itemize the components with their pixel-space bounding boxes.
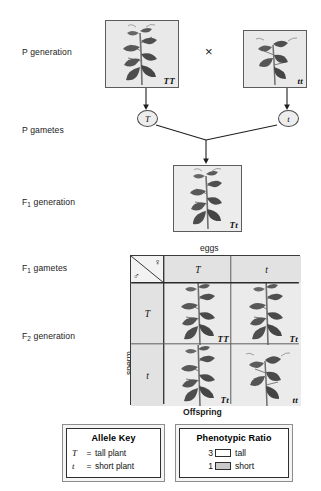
phenotypic-ratio-count-1: 1 xyxy=(203,460,213,473)
allele-key-equals-0: = xyxy=(83,447,95,459)
punnett-genotype-1-0: Tt xyxy=(221,395,229,405)
phenotypic-ratio-title: Phenotypic Ratio xyxy=(185,433,283,443)
female-symbol-icon: ♀ xyxy=(154,258,161,267)
phenotypic-ratio-label-1: short xyxy=(235,460,265,473)
punnett-egg-allele-1: t xyxy=(265,265,268,275)
phenotypic-ratio-row-short: 1 short xyxy=(185,460,283,473)
allele-key-meaning-0: tall plant xyxy=(95,447,126,459)
f2-gen-tail: generation xyxy=(31,331,75,341)
f1-genotype: Tt xyxy=(230,220,238,230)
punnett-sperm-header-T: T xyxy=(131,283,164,345)
punnett-genotype-0-0: TT xyxy=(218,334,229,344)
punnett-cell-Tt-top: Tt xyxy=(232,283,301,345)
f1-gam-tail: gametes xyxy=(31,263,67,273)
row-label-f2-generation: F2 generation xyxy=(22,331,75,341)
punnett-square: ♀ ♂ T t T t xyxy=(130,255,300,405)
p-gamete-right: t xyxy=(278,110,299,127)
f1-gen-subscript: 1 xyxy=(27,201,31,208)
punnett-genotype-0-1: Tt xyxy=(290,334,298,344)
p-gamete-left: T xyxy=(137,110,158,127)
phenotypic-ratio-legend: Phenotypic Ratio 3 tall 1 short xyxy=(175,424,293,482)
punnett-genotype-1-1: tt xyxy=(293,395,298,405)
punnett-cell-TT: TT xyxy=(164,283,232,345)
punnett-egg-header-t: t xyxy=(232,256,301,283)
allele-key-symbol-0: T xyxy=(72,447,83,460)
phenotypic-ratio-label-0: tall xyxy=(235,447,265,460)
phenotypic-ratio-inner: Phenotypic Ratio 3 tall 1 short xyxy=(179,428,289,478)
allele-key-row-t: t = short plant xyxy=(72,460,155,473)
punnett-egg-allele-0: T xyxy=(195,265,200,275)
f1-plant-box: Tt xyxy=(173,165,242,232)
male-symbol-icon: ♂ xyxy=(133,272,140,281)
punnett-offspring-label: Offspring xyxy=(183,407,222,417)
punnett-corner-cell: ♀ ♂ xyxy=(131,256,164,283)
f1-gen-tail: generation xyxy=(31,197,75,207)
allele-key-equals-1: = xyxy=(83,460,95,472)
phenotypic-ratio-row-tall: 3 tall xyxy=(185,447,283,460)
p-parent-short-box: tt xyxy=(243,30,307,88)
punnett-eggs-label: eggs xyxy=(200,243,219,253)
p-parent-short-genotype: tt xyxy=(298,76,303,86)
allele-key-symbol-1: t xyxy=(72,460,83,473)
allele-key-legend: Allele Key T = tall plant t = short plan… xyxy=(62,424,165,482)
row-label-f1-gametes: F1 gametes xyxy=(22,263,67,273)
punnett-egg-header-T: T xyxy=(164,256,232,283)
genetics-diagram: P generation P gametes F1 generation F1 … xyxy=(0,0,321,491)
phenotypic-ratio-swatch-tall xyxy=(215,449,231,457)
punnett-sperm-header-t: t xyxy=(131,345,164,406)
phenotypic-ratio-count-0: 3 xyxy=(203,447,213,460)
row-label-p-gametes: P gametes xyxy=(22,125,64,135)
f1-gam-subscript: 1 xyxy=(27,267,31,274)
cross-symbol: × xyxy=(205,44,213,59)
row-label-f1-generation: F1 generation xyxy=(22,197,75,207)
punnett-cell-tt: tt xyxy=(232,345,301,406)
phenotypic-ratio-swatch-short xyxy=(215,462,231,470)
offspring-short-plant-illustration xyxy=(232,345,301,406)
punnett-cell-Tt-bottom: Tt xyxy=(164,345,232,406)
p-parent-tall-box: TT xyxy=(105,20,179,88)
allele-key-row-T: T = tall plant xyxy=(72,447,155,460)
punnett-sperm-allele-0: T xyxy=(145,309,150,319)
allele-key-title: Allele Key xyxy=(72,433,155,443)
punnett-sperm-allele-1: t xyxy=(146,371,149,381)
allele-key-inner: Allele Key T = tall plant t = short plan… xyxy=(66,428,161,478)
allele-key-meaning-1: short plant xyxy=(95,460,134,472)
f2-gen-subscript: 2 xyxy=(27,335,31,342)
row-label-p-generation: P generation xyxy=(22,47,72,57)
p-parent-tall-genotype: TT xyxy=(164,76,175,86)
